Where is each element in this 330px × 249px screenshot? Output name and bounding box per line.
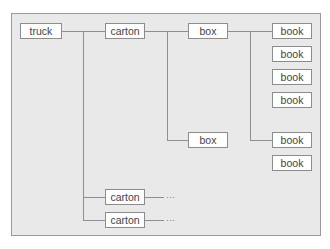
node-box: box <box>188 23 228 39</box>
connector-carton3 <box>83 220 105 221</box>
connector-box-trunk <box>250 31 251 141</box>
node-box: box <box>188 132 228 148</box>
connector-carton2 <box>83 197 105 198</box>
node-book: book <box>272 132 312 148</box>
node-book: book <box>272 155 312 171</box>
connector-box2 <box>167 140 188 141</box>
connector-carton2-more <box>145 197 164 198</box>
connector-carton-trunk <box>167 31 168 141</box>
node-book: book <box>272 23 312 39</box>
node-carton: carton <box>105 212 145 228</box>
connector-truck-trunk <box>83 31 84 221</box>
connector-book5 <box>250 140 272 141</box>
node-book: book <box>272 92 312 108</box>
node-book: book <box>272 69 312 85</box>
ellipsis-more: ··· <box>166 192 175 202</box>
node-carton: carton <box>105 23 145 39</box>
node-truck: truck <box>20 23 62 39</box>
ellipsis-more: ··· <box>166 215 175 225</box>
node-carton: carton <box>105 189 145 205</box>
connector-carton3-more <box>145 220 164 221</box>
node-book: book <box>272 46 312 62</box>
